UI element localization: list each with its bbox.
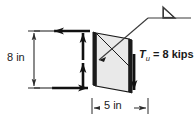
dimension-height-label: 8 in [7, 52, 25, 63]
shear-panel-figure: 8 in 5 in Tu = 8 kips [0, 0, 196, 119]
force-magnitude: 8 [162, 48, 168, 60]
dimension-width-label: 5 in [104, 100, 122, 111]
force-subscript: u [146, 54, 150, 63]
weld-symbol [148, 7, 191, 18]
force-unit: kips [172, 48, 194, 60]
dimension-height [28, 31, 40, 88]
fillet-weld-triangle-icon [164, 8, 175, 17]
force-label: Tu = 8 kips [139, 49, 194, 63]
force-equals: = [153, 48, 159, 60]
force-symbol: T [139, 48, 146, 60]
shear-panel [93, 32, 132, 93]
